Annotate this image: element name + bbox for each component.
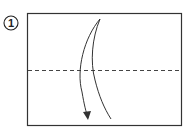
fold-drawing	[0, 0, 186, 134]
origami-diagram: 1	[0, 0, 186, 134]
paper-rectangle	[28, 14, 182, 126]
